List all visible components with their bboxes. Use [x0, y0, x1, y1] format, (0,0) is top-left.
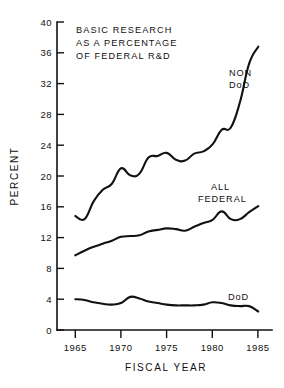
chart-title-line-1: BASIC RESEARCH	[76, 25, 173, 35]
x-axis-title: FISCAL YEAR	[125, 362, 207, 373]
x-tick-label-1970: 1970	[109, 342, 132, 353]
y-tick-label-40: 40	[40, 17, 52, 28]
chart-figure: 40 36 32 28 24 20 16 12 8 4 0 1965 1970 …	[0, 0, 284, 388]
chart-title-line-2: AS A PERCENTAGE	[76, 38, 178, 48]
y-axis-title: PERCENT	[9, 147, 20, 206]
x-axis-ticks	[75, 330, 258, 338]
x-tick-label-1965: 1965	[64, 342, 87, 353]
y-tick-label-32: 32	[40, 78, 52, 89]
y-tick-label-36: 36	[40, 47, 52, 58]
x-tick-label-1980: 1980	[201, 342, 224, 353]
y-tick-label-4: 4	[46, 294, 52, 305]
y-axis-ticks	[57, 22, 64, 330]
series-label-all-federal-line1: ALL	[211, 182, 230, 192]
chart-title-line-3: OF FEDERAL R&D	[76, 51, 171, 61]
y-tick-label-8: 8	[46, 263, 52, 274]
y-tick-label-0: 0	[46, 325, 52, 336]
x-tick-label-1985: 1985	[246, 342, 269, 353]
series-label-dod: DoD	[228, 292, 249, 302]
y-tick-label-24: 24	[40, 140, 52, 151]
y-tick-label-16: 16	[40, 201, 52, 212]
series-label-non-dod-line1: NON	[229, 68, 252, 78]
x-tick-label-1975: 1975	[155, 342, 178, 353]
series-label-non-dod-line2: DoD	[229, 80, 250, 90]
series-line-all-federal	[75, 206, 258, 255]
y-tick-label-28: 28	[40, 109, 52, 120]
y-tick-label-12: 12	[40, 232, 52, 243]
y-tick-label-20: 20	[40, 171, 52, 182]
series-label-all-federal-line2: FEDERAL	[198, 194, 247, 204]
